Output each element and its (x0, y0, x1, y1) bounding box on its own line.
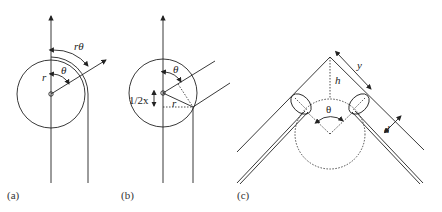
label-theta: θ (173, 63, 179, 75)
panel-b: θ 1/2x r (b) (121, 16, 230, 202)
radius-arrow (51, 60, 106, 94)
caption-a: (a) (7, 189, 20, 202)
radius-left-dotted (307, 112, 330, 134)
label-h: h (335, 74, 341, 86)
label-theta: θ (326, 103, 331, 115)
radius-right-dotted (330, 112, 353, 134)
left-rod-1 (237, 111, 305, 183)
wrapped-belt (51, 57, 88, 183)
left-ellipse (287, 90, 315, 118)
label-r: r (172, 97, 177, 109)
label-r-theta: rθ (74, 40, 84, 52)
label-d: d (384, 123, 390, 135)
panel-c: y h θ d (c) (237, 54, 424, 202)
angle-line (163, 61, 215, 93)
figure: rθ θ r (a) θ 1/2x r (b) (0, 0, 442, 212)
label-theta: θ (61, 64, 67, 76)
label-y: y (356, 59, 362, 71)
panel-a: rθ θ r (a) (7, 16, 106, 202)
right-ellipse-axis (353, 98, 365, 110)
caption-b: (b) (121, 189, 134, 202)
angle-arrow (318, 117, 343, 121)
label-half-x: 1/2x (129, 94, 149, 106)
label-r: r (42, 71, 47, 83)
caption-c: (c) (237, 189, 250, 202)
left-rod-2 (240, 112, 308, 184)
left-ellipse-axis (295, 98, 307, 110)
belt-exit-line (193, 83, 230, 107)
right-rod-1 (355, 111, 423, 183)
length-arrow (338, 54, 371, 89)
